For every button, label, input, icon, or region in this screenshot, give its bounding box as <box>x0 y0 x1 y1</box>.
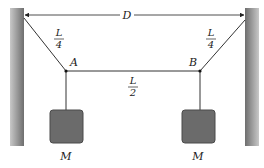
mass-right-label: M <box>191 150 204 163</box>
svg-text:L: L <box>55 27 63 38</box>
svg-text:4: 4 <box>55 39 62 50</box>
point-b-dot <box>198 69 201 72</box>
right-wall <box>245 8 259 146</box>
left-segment-fraction: L 4 <box>54 27 64 50</box>
middle-segment-fraction: L 2 <box>128 75 138 98</box>
mass-left-label: M <box>59 150 72 163</box>
point-a-label: A <box>69 56 78 69</box>
right-segment-fraction: L 4 <box>206 27 216 50</box>
physics-diagram: D A B L 4 L 4 L 2 M M <box>0 0 264 168</box>
svg-text:2: 2 <box>129 87 136 98</box>
svg-text:L: L <box>129 75 137 86</box>
svg-text:4: 4 <box>207 39 214 50</box>
left-wall <box>10 8 24 146</box>
distance-arrow <box>25 9 244 20</box>
mass-block-right <box>182 110 215 143</box>
point-b-label: B <box>188 56 197 69</box>
diagram-canvas: D A B L 4 L 4 L 2 M M <box>0 0 264 168</box>
mass-block-left <box>50 110 83 143</box>
svg-text:L: L <box>207 27 215 38</box>
point-a-dot <box>64 69 67 72</box>
distance-label: D <box>122 9 132 22</box>
